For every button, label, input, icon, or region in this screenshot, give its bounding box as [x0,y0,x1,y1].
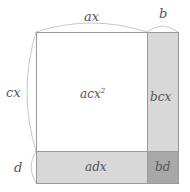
label-acx2: acx2 [80,88,105,100]
label-bcx: bcx [150,91,171,103]
label-adx: adx [85,161,107,173]
label-ax: ax [84,10,99,23]
label-cx: cx [6,86,21,99]
label-b: b [159,7,167,20]
label-bd: bd [155,161,170,173]
label-d: d [14,161,22,174]
label-exponent: 2 [101,87,105,95]
brace-cx [27,32,36,151]
label-acx: acx [80,87,101,101]
brace-ax [36,23,147,32]
